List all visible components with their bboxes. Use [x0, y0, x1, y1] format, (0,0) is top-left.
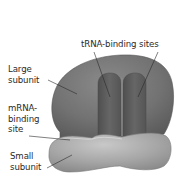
label-small-subunit: Small subunit [10, 151, 41, 172]
label-line: binding [8, 114, 39, 125]
label-line: Large [8, 64, 39, 75]
ribosome-diagram: tRNA-binding sites Large subunit mRNA- b… [0, 0, 185, 185]
label-line: Small [10, 151, 41, 162]
label-line: mRNA- [8, 103, 39, 114]
label-line: subunit [8, 75, 39, 86]
small-subunit-shape [49, 133, 171, 172]
label-large-subunit: Large subunit [8, 64, 39, 85]
trna-binding-grooves [98, 73, 146, 136]
label-line: site [8, 124, 39, 135]
label-trna-binding-sites: tRNA-binding sites [81, 39, 159, 50]
label-line: subunit [10, 162, 41, 173]
label-mrna-binding-site: mRNA- binding site [8, 103, 39, 135]
label-line: tRNA-binding sites [81, 39, 159, 50]
